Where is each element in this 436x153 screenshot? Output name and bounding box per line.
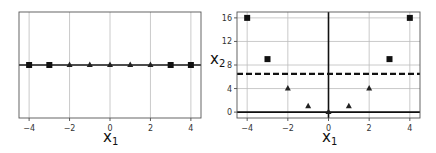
x-tick-label: −4	[23, 124, 35, 133]
square-marker	[244, 15, 250, 21]
square-marker	[26, 62, 32, 68]
y-tick-label: 0	[227, 108, 232, 117]
triangle-marker	[366, 85, 372, 91]
square-marker	[188, 62, 194, 68]
x-tick-label: 4	[188, 124, 193, 133]
x-tick-label: 4	[407, 124, 412, 133]
right-ylabel: x2	[210, 50, 225, 69]
y-tick-label: 4	[227, 85, 232, 94]
left-xlabel: x1	[103, 128, 118, 147]
figure: −4−2024 x1 −4−20240481216 x1 x2	[0, 0, 436, 153]
y-tick-label: 16	[222, 14, 232, 23]
right-xlabel: x1	[322, 128, 337, 147]
square-marker	[46, 62, 52, 68]
x-tick-label: −2	[64, 124, 76, 133]
left-plot: −4−2024	[19, 12, 201, 133]
x-tick-label: 2	[367, 124, 372, 133]
triangle-marker	[285, 85, 291, 91]
x-tick-label: −2	[282, 124, 294, 133]
y-tick-label: 8	[227, 61, 232, 70]
y-tick-label: 12	[222, 37, 232, 46]
square-marker	[265, 56, 271, 62]
triangle-marker	[346, 103, 352, 109]
square-marker	[387, 56, 393, 62]
square-marker	[407, 15, 413, 21]
x-tick-label: 2	[148, 124, 153, 133]
triangle-marker	[305, 103, 311, 109]
right-plot: −4−20240481216	[222, 12, 420, 133]
x-tick-label: −4	[241, 124, 253, 133]
square-marker	[168, 62, 174, 68]
